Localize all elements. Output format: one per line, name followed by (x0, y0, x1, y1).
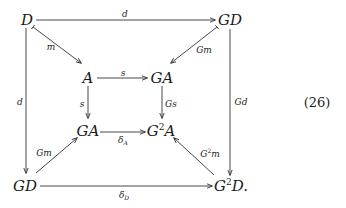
node-ga-mid: GA (77, 124, 100, 139)
label-g2m-post: m (211, 149, 220, 159)
node-gd-bottom: GD (13, 179, 37, 194)
node-gd-top-text: GD (218, 11, 242, 29)
node-d-top: D (21, 13, 33, 28)
label-gs-right: Gs (165, 100, 177, 109)
node-ga-mid-text: GA (77, 122, 100, 140)
label-delta-d-sub: D (124, 194, 129, 201)
node-gd-bottom-text: GD (13, 177, 37, 195)
label-gd-right: Gd (235, 98, 248, 107)
node-g2d-pre: G (214, 177, 226, 195)
label-s-top: s (121, 69, 126, 78)
node-a: A (83, 71, 94, 86)
node-g2a-pre: G (147, 122, 159, 140)
label-d-top: d (122, 10, 128, 19)
node-ga-top-text: GA (151, 69, 174, 87)
label-s-left: s (80, 100, 85, 109)
equation-number: (26) (304, 95, 331, 110)
label-delta-a-sub: A (124, 139, 128, 146)
label-delta-d: δD (119, 191, 129, 200)
node-g2d-post: D. (232, 177, 248, 195)
label-m: m (47, 43, 56, 52)
node-ga-top: GA (151, 71, 174, 86)
node-g2a-post: A (164, 122, 175, 140)
node-a-text: A (83, 69, 94, 87)
node-g2d: G2D. (214, 179, 248, 194)
label-d-left: d (17, 98, 23, 107)
label-g2m: G2m (200, 150, 220, 159)
node-d-top-text: D (21, 11, 33, 29)
label-delta-a: δA (118, 136, 128, 145)
label-gm-bottom: Gm (36, 149, 52, 158)
label-gm-top: Gm (196, 46, 212, 55)
node-g2a: G2A (147, 124, 176, 139)
arrow-m (33, 27, 81, 63)
commutative-diagram: D GD A GA GA G2A GD G2D. d m Gm d Gd s s… (0, 0, 346, 208)
node-gd-top: GD (218, 13, 242, 28)
